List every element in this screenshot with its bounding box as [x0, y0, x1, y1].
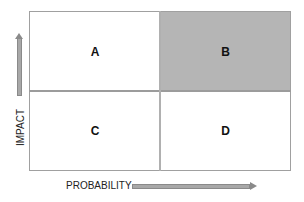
x-axis-label: PROBABILITY — [66, 180, 132, 191]
quadrant-d: D — [160, 91, 291, 171]
y-axis-label: IMPACT — [15, 100, 26, 156]
quadrant-a-label: A — [91, 45, 100, 59]
quadrant-c-label: C — [91, 124, 100, 138]
quadrant-b-label: B — [221, 45, 230, 59]
quadrant-b: B — [160, 11, 291, 92]
y-axis-arrow-shaft — [17, 38, 22, 96]
quadrant-d-label: D — [221, 124, 230, 138]
quadrant-a: A — [29, 11, 161, 92]
quadrant-c: C — [29, 91, 161, 171]
vertical-divider — [159, 11, 161, 171]
x-axis-arrow-shaft — [132, 184, 250, 189]
arrow-right-icon — [250, 182, 257, 190]
